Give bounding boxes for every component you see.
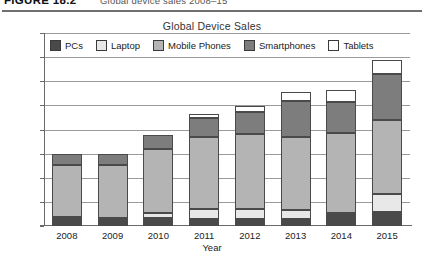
chart-title: Global Device Sales: [0, 20, 424, 32]
bar-segment-pcs: [52, 217, 82, 226]
bar-segment-tablets: [326, 90, 356, 102]
bar-segment-mobile-phones: [143, 149, 173, 212]
figure-caption: FIGURE 18.2 Global device sales 2008–15: [0, 0, 424, 10]
x-tick-label: 2009: [90, 230, 136, 241]
bar-segment-smartphones: [98, 154, 128, 166]
y-axis-line: [44, 33, 45, 226]
y-tick-mark: [40, 178, 44, 179]
y-tick-mark: [40, 57, 44, 58]
y-tick-mark: [40, 154, 44, 155]
x-tick-label: 2013: [273, 230, 319, 241]
bar-group[interactable]: [189, 33, 219, 226]
x-tick-label: 2014: [318, 230, 364, 241]
bar-segment-smartphones: [143, 135, 173, 149]
bar-segment-laptop: [281, 210, 311, 219]
bar-segment-laptop: [143, 213, 173, 219]
bar-segment-laptop: [235, 209, 265, 219]
bar-segment-mobile-phones: [326, 133, 356, 212]
bar-segment-pcs: [281, 219, 311, 226]
y-tick-mark: [40, 202, 44, 203]
x-tick-label: 2008: [44, 230, 90, 241]
bar-segment-laptop: [372, 194, 402, 211]
bar-segment-pcs: [235, 219, 265, 226]
bar-segment-smartphones: [372, 74, 402, 120]
bar-segment-laptop: [189, 209, 219, 219]
bar-group[interactable]: [235, 33, 265, 226]
bar-segment-smartphones: [189, 118, 219, 138]
bar-segment-pcs: [372, 212, 402, 226]
bar-segment-mobile-phones: [189, 137, 219, 208]
bar-segment-tablets: [235, 106, 265, 112]
bar-group[interactable]: [143, 33, 173, 226]
plot-area: 0500100015002000250030003500400020082009…: [44, 33, 410, 226]
bar-segment-pcs: [189, 219, 219, 226]
x-tick-label: 2011: [181, 230, 227, 241]
bar-segment-tablets: [372, 60, 402, 74]
x-axis-label: Year: [0, 242, 424, 253]
bar-group[interactable]: [98, 33, 128, 226]
bar-segment-tablets: [281, 92, 311, 101]
bar-segment-mobile-phones: [372, 120, 402, 194]
y-tick-mark: [40, 130, 44, 131]
x-tick-label: 2010: [135, 230, 181, 241]
bar-segment-smartphones: [52, 154, 82, 166]
bar-segment-smartphones: [281, 101, 311, 137]
bar-segment-mobile-phones: [281, 137, 311, 210]
y-tick-mark: [40, 81, 44, 82]
bar-group[interactable]: [281, 33, 311, 226]
bar-segment-mobile-phones: [98, 165, 128, 218]
y-tick-mark: [40, 105, 44, 106]
bar-segment-pcs: [143, 218, 173, 226]
figure-caption-text: Global device sales 2008–15: [100, 0, 227, 6]
x-tick-label: 2015: [364, 230, 410, 241]
bar-segment-smartphones: [326, 102, 356, 134]
bar-segment-mobile-phones: [52, 165, 82, 217]
y-tick-mark: [40, 226, 44, 227]
bar-segment-pcs: [98, 218, 128, 226]
bar-segment-pcs: [326, 213, 356, 227]
caption-divider: [2, 10, 422, 12]
y-tick-mark: [40, 33, 44, 34]
bar-group[interactable]: [372, 33, 402, 226]
bar-group[interactable]: [326, 33, 356, 226]
bar-segment-tablets: [189, 114, 219, 117]
x-tick-label: 2012: [227, 230, 273, 241]
bar-segment-smartphones: [235, 112, 265, 134]
figure-number: FIGURE 18.2: [4, 0, 76, 6]
chart-container: Global Device Sales PCsLaptopMobile Phon…: [0, 14, 424, 267]
bar-segment-mobile-phones: [235, 134, 265, 209]
bar-group[interactable]: [52, 33, 82, 226]
